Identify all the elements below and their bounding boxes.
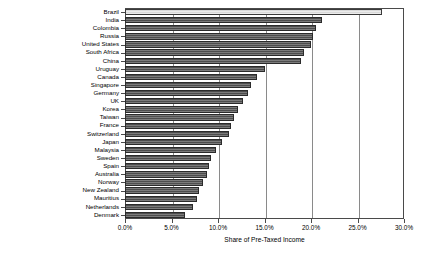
x-tick [125, 219, 126, 223]
bar-row [125, 163, 404, 169]
x-tick [311, 219, 312, 223]
x-tick-label: 25.0% [348, 224, 366, 231]
bar [125, 163, 209, 169]
category-label: Taiwan [0, 113, 119, 121]
category-label: Spain [0, 162, 119, 170]
category-label: Germany [0, 89, 119, 97]
bar [125, 33, 313, 39]
bar-row [125, 90, 404, 96]
bar-row [125, 66, 404, 72]
category-label: Switzerland [0, 130, 119, 138]
bar [125, 204, 193, 210]
category-label: Denmark [0, 211, 119, 219]
category-label: Norway [0, 178, 119, 186]
category-label: United States [0, 40, 119, 48]
category-label: Korea [0, 105, 119, 113]
bar [125, 74, 257, 80]
bar-row [125, 106, 404, 112]
bar [125, 212, 185, 218]
bar-row [125, 17, 404, 23]
bar-row [125, 9, 404, 15]
bar-row [125, 131, 404, 137]
bar-row [125, 74, 404, 80]
bar-row [125, 82, 404, 88]
bar [125, 155, 211, 161]
x-axis-title: Share of Pre-Taxed Income [125, 236, 404, 243]
bar-row [125, 25, 404, 31]
category-label: Netherlands [0, 203, 119, 211]
category-label: Malaysia [0, 146, 119, 154]
category-label: Colombia [0, 24, 119, 32]
bar [125, 41, 311, 47]
x-tick [404, 219, 405, 223]
bar-row [125, 123, 404, 129]
bar [125, 171, 207, 177]
bar [125, 179, 203, 185]
bar [125, 131, 229, 137]
bar-row [125, 179, 404, 185]
bar-row [125, 155, 404, 161]
x-tick-label: 5.0% [164, 224, 179, 231]
bar-row [125, 187, 404, 193]
bar-row [125, 33, 404, 39]
x-tick [358, 219, 359, 223]
bar [125, 82, 251, 88]
bar [125, 196, 197, 202]
bar [125, 147, 216, 153]
bar [125, 187, 199, 193]
bar-row [125, 114, 404, 120]
x-tick-label: 30.0% [395, 224, 413, 231]
bar-row [125, 139, 404, 145]
x-tick [218, 219, 219, 223]
category-label: Australia [0, 170, 119, 178]
category-axis: BrazilIndiaColombiaRussiaUnited StatesSo… [0, 8, 119, 219]
bar [125, 25, 316, 31]
x-tick-label: 10.0% [209, 224, 227, 231]
bar-chart: BrazilIndiaColombiaRussiaUnited StatesSo… [0, 0, 428, 263]
category-label: Brazil [0, 8, 119, 16]
category-label: India [0, 16, 119, 24]
x-tick-label: 0.0% [118, 224, 133, 231]
x-tick [265, 219, 266, 223]
bar-row [125, 58, 404, 64]
category-label: New Zealand [0, 186, 119, 194]
bar-row [125, 212, 404, 218]
bar [125, 139, 222, 145]
category-label: Singapore [0, 81, 119, 89]
bar-row [125, 196, 404, 202]
category-label: Japan [0, 138, 119, 146]
bar [125, 106, 238, 112]
category-label: UK [0, 97, 119, 105]
x-tick-label: 20.0% [302, 224, 320, 231]
bar [125, 98, 243, 104]
category-label: Mauritius [0, 194, 119, 202]
bar [125, 123, 231, 129]
bar [125, 17, 322, 23]
bar-row [125, 49, 404, 55]
category-label: Canada [0, 73, 119, 81]
bar [125, 114, 234, 120]
bars-layer [125, 8, 404, 219]
category-label: China [0, 57, 119, 65]
bar-row [125, 147, 404, 153]
bar-row [125, 171, 404, 177]
bar-row [125, 41, 404, 47]
x-tick [172, 219, 173, 223]
category-label: South Africa [0, 48, 119, 56]
bar [125, 66, 265, 72]
category-label: France [0, 121, 119, 129]
bar-row [125, 98, 404, 104]
bar [125, 90, 248, 96]
x-tick-label: 15.0% [255, 224, 273, 231]
bar-row [125, 204, 404, 210]
bar [125, 58, 301, 64]
category-label: Uruguay [0, 65, 119, 73]
bar [125, 9, 382, 15]
bar [125, 49, 304, 55]
category-label: Russia [0, 32, 119, 40]
category-label: Sweden [0, 154, 119, 162]
